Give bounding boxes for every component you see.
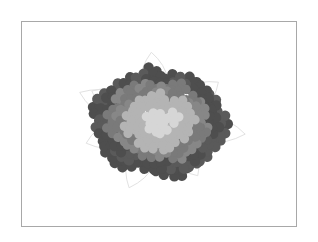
floret-cluster	[86, 59, 233, 184]
hydrangea-illustration	[0, 0, 318, 242]
image-canvas	[0, 0, 318, 242]
